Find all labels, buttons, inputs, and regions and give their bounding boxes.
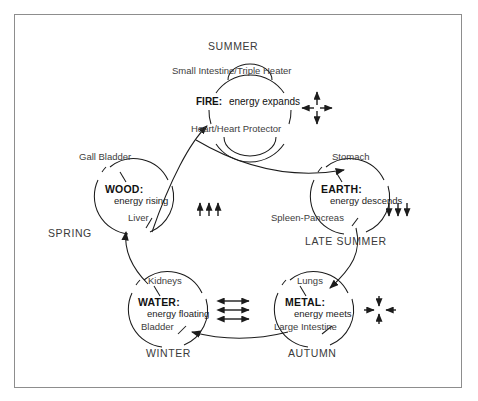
season-label-spring: SPRING bbox=[48, 228, 92, 240]
element-block-earth: EARTH: energy descends bbox=[321, 183, 402, 206]
element-desc-earth: energy descends bbox=[321, 195, 402, 206]
arrow-water-to-wood bbox=[126, 232, 148, 284]
element-name-fire: FIRE: bbox=[196, 96, 222, 107]
organ-label-heart-heart-protector: Heart/Heart Protector bbox=[191, 124, 281, 134]
metal-yang-tick bbox=[300, 286, 306, 296]
fire-yin-arc bbox=[224, 137, 276, 156]
diagram-canvas: SUMMER Small Intestine/Triple Heater FIR… bbox=[0, 0, 478, 401]
diagram-vector-layer bbox=[0, 0, 478, 401]
earth-yin-tick bbox=[352, 218, 358, 226]
season-label-autumn: AUTUMN bbox=[288, 348, 337, 360]
element-desc-water: energy floating bbox=[138, 308, 209, 319]
element-name-earth: EARTH: bbox=[321, 183, 402, 195]
organ-label-liver: Liver bbox=[128, 213, 149, 223]
organ-label-stomach: Stomach bbox=[332, 152, 370, 162]
organ-label-large-intestine: Large Intestine bbox=[274, 322, 337, 332]
organ-label-bladder: Bladder bbox=[141, 322, 174, 332]
element-block-water: WATER: energy floating bbox=[138, 296, 209, 319]
arrow-metal-to-water bbox=[192, 332, 288, 338]
earth-yang-tick bbox=[336, 172, 342, 182]
fire-circle bbox=[209, 75, 291, 162]
element-name-metal: METAL: bbox=[285, 296, 352, 308]
metal-motion-symbol bbox=[364, 296, 396, 324]
season-label-late-summer: LATE SUMMER bbox=[305, 236, 387, 248]
element-desc-fire: energy expands bbox=[225, 96, 300, 107]
organ-label-kidneys: Kidneys bbox=[148, 276, 182, 286]
element-name-wood: WOOD: bbox=[105, 183, 168, 195]
element-block-wood: WOOD: energy rising bbox=[105, 183, 168, 206]
organ-label-gall-bladder: Gall Bladder bbox=[79, 152, 131, 162]
water-yin-tick bbox=[178, 326, 186, 334]
fire-element-text: FIRE: energy expands bbox=[196, 96, 300, 107]
organ-label-lungs: Lungs bbox=[297, 276, 323, 286]
water-motion-symbol bbox=[224, 301, 249, 319]
element-block-metal: METAL: energy meets bbox=[285, 296, 352, 319]
wood-motion-symbol bbox=[200, 203, 218, 216]
organ-label-small-intestine-triple-heater: Small Intestine/Triple Heater bbox=[172, 66, 292, 76]
element-desc-metal: energy meets bbox=[285, 308, 352, 319]
season-label-summer: SUMMER bbox=[208, 41, 258, 53]
season-label-winter: WINTER bbox=[146, 348, 191, 360]
element-desc-wood: energy rising bbox=[105, 195, 168, 206]
element-name-water: WATER: bbox=[138, 296, 209, 308]
water-yang-tick bbox=[154, 286, 160, 296]
organ-label-spleen-pancreas: Spleen-Pancreas bbox=[271, 213, 344, 223]
fire-motion-symbol bbox=[302, 92, 332, 124]
